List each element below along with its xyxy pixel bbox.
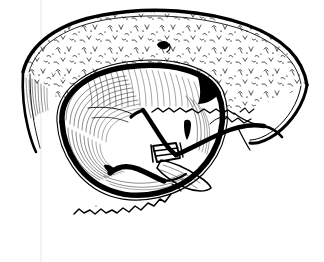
surgical-illustration: Surgical field line illustration Pen-and… (0, 0, 324, 262)
figure-container: Surgical field line illustration Pen-and… (0, 0, 324, 262)
